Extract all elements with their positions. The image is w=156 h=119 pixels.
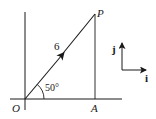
label-magnitude: 6 [54,40,60,52]
vector-diagram: O P A 6 50° j i [0,0,156,119]
label-p: P [96,7,104,19]
angle-arc [37,84,44,99]
label-j: j [111,43,116,55]
label-i: i [145,72,148,84]
label-o: O [12,102,20,114]
vector-op-upper [60,14,95,57]
label-angle: 50° [45,82,59,93]
label-a: A [90,102,98,114]
